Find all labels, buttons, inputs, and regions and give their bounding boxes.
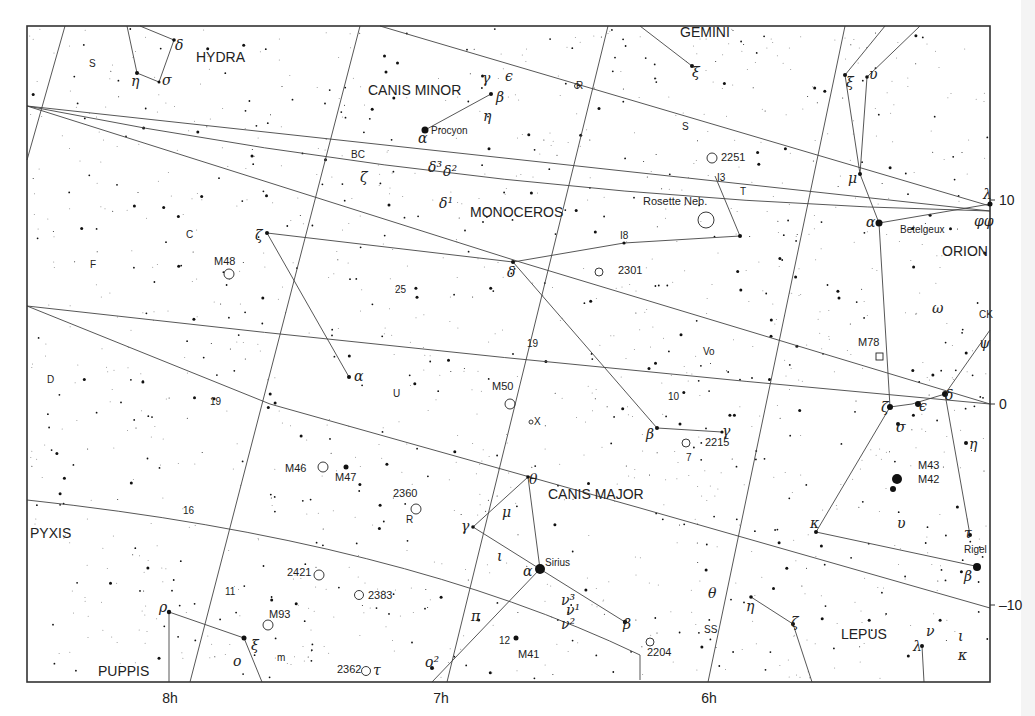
- star-designation: R: [576, 80, 583, 91]
- greek-letter: ω: [932, 300, 944, 316]
- boundary-lines: [27, 26, 990, 682]
- dec-label: 0: [999, 396, 1007, 412]
- ra-label: 7h: [433, 690, 449, 706]
- deep-sky-label: M47: [335, 471, 356, 483]
- greek-letter-labels: δησγϵβηαδ³δ²δ¹ζζαδβγξξυμαλφφωψζϵδσηυκτβθ…: [131, 37, 994, 678]
- star-designation: D: [47, 374, 54, 385]
- constellation-figures: [127, 26, 990, 682]
- star-name-label: Sirius: [545, 557, 570, 568]
- greek-letter: ξ: [846, 74, 855, 90]
- greek-letter: μ: [848, 170, 857, 186]
- constellation-label: CANIS MINOR: [368, 82, 461, 98]
- star-designation: I3: [717, 172, 726, 183]
- greek-letter: γ: [461, 518, 470, 534]
- deep-sky-label: M48: [214, 255, 235, 267]
- deep-sky-label: 2204: [647, 646, 671, 658]
- greek-letter: β: [963, 568, 972, 584]
- greek-letter: η: [969, 436, 978, 452]
- greek-letter: ζ: [255, 227, 264, 243]
- deep-sky-label: 2251: [721, 151, 745, 163]
- deep-sky-label: 2421: [287, 566, 311, 578]
- star-designation: BC: [351, 149, 365, 160]
- greek-letter: μ: [502, 504, 511, 520]
- star-designation: Vo: [703, 346, 715, 357]
- greek-letter: θ: [708, 585, 717, 601]
- star-designation: 19: [210, 396, 222, 407]
- star-designation: T: [740, 186, 746, 197]
- star-name-label: Procyon: [431, 125, 468, 136]
- star-chart: HYDRACANIS MINORGEMINIMONOCEROSORIONPYXI…: [0, 0, 1035, 716]
- star-designation: F: [90, 259, 96, 270]
- deep-sky-label: M50: [492, 380, 513, 392]
- greek-letter: ζ: [791, 614, 800, 630]
- dec-label: –10: [999, 597, 1023, 613]
- greek-letter: φφ: [974, 213, 994, 229]
- greek-letter: σ: [896, 419, 906, 435]
- greek-letter: υ: [897, 515, 906, 531]
- greek-letter: π: [470, 608, 481, 624]
- star-designation: 10: [668, 391, 680, 402]
- star-designation: X: [534, 416, 541, 427]
- star-designation: U: [393, 388, 400, 399]
- deep-sky-label: M42: [918, 473, 939, 485]
- greek-letter: κ: [809, 515, 819, 531]
- greek-letter: ι: [958, 628, 964, 644]
- constellation-label: MONOCEROS: [470, 204, 563, 220]
- greek-letter: ν: [926, 623, 935, 639]
- constellation-label: ORION: [942, 243, 988, 259]
- constellation-label: PUPPIS: [98, 663, 149, 679]
- constellation-label: PYXIS: [30, 525, 71, 541]
- star-designation: 7: [686, 452, 692, 463]
- greek-letter: η: [131, 73, 140, 89]
- star-designation: 25: [395, 284, 407, 295]
- star-designation: 19: [527, 338, 539, 349]
- star-sirius: [535, 564, 545, 574]
- greek-letter: α: [866, 214, 876, 230]
- greek-letter: δ: [175, 37, 183, 53]
- star-designation: R: [406, 514, 413, 525]
- greek-letter: β: [645, 426, 654, 442]
- star-designation: 12: [499, 635, 511, 646]
- deep-sky-label: 2301: [618, 264, 642, 276]
- constellation-label: LEPUS: [841, 626, 887, 642]
- star-name-label: Rigel: [964, 544, 987, 555]
- greek-letter: ξ: [692, 64, 701, 80]
- deep-sky-label: Rosette Neb.: [643, 195, 707, 207]
- star-designation: C: [186, 229, 193, 240]
- greek-letter: ρ: [158, 599, 168, 615]
- star-designation: 11: [225, 586, 236, 597]
- greek-letter: δ: [945, 387, 953, 403]
- greek-letter: ϵ: [505, 68, 513, 84]
- ra-label: 6h: [701, 690, 717, 706]
- deep-sky-label: 2383: [368, 589, 392, 601]
- ra-label: 8h: [162, 690, 178, 706]
- star-letter-labels: SCFD191611BC2519URSI3TI8Vo10XR12mSSCK7: [47, 58, 993, 663]
- greek-letter: γ: [482, 70, 491, 86]
- deep-sky-markers: [224, 84, 883, 676]
- star-designation: I8: [620, 230, 629, 241]
- greek-letter: η: [483, 108, 492, 124]
- greek-letter: ψ: [979, 335, 991, 351]
- greek-letter: λ: [982, 186, 992, 202]
- star-field: [29, 28, 988, 679]
- greek-letter: ν²: [561, 616, 576, 632]
- star-designation: S: [682, 121, 689, 132]
- greek-letter: ο: [233, 653, 241, 669]
- star-designation: SS: [704, 624, 718, 635]
- chart-frame: [27, 26, 990, 682]
- greek-letter: ζ: [360, 169, 369, 185]
- greek-letter: δ¹: [439, 195, 453, 211]
- greek-letter: δ³: [428, 159, 442, 175]
- star-designation: 16: [183, 505, 195, 516]
- star-betelgeux: [876, 220, 883, 227]
- greek-letter: β: [622, 616, 631, 632]
- star-name-label: Betelgeux: [900, 224, 944, 235]
- greek-letter: α: [523, 563, 533, 579]
- star-designation: S: [89, 58, 96, 69]
- greek-letter: α: [354, 368, 364, 384]
- greek-letter: θ: [529, 471, 538, 487]
- greek-letter: λ: [912, 638, 922, 654]
- greek-letter: η: [746, 598, 755, 614]
- axis-labels: 8h7h6h100–10: [162, 192, 1022, 706]
- greek-letter: δ²: [443, 163, 457, 179]
